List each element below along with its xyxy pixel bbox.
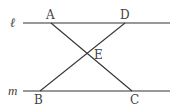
label-point-d: D <box>120 8 130 22</box>
label-point-b: B <box>34 93 43 107</box>
label-line-m: m <box>8 83 17 98</box>
segment-db <box>40 23 125 91</box>
label-line-l: ℓ <box>10 15 16 30</box>
segment-ac <box>51 23 132 91</box>
label-point-c: C <box>130 93 139 107</box>
geometry-diagram: ℓ m A D E B C <box>0 0 178 107</box>
label-point-e: E <box>94 48 103 62</box>
label-point-a: A <box>45 8 55 22</box>
